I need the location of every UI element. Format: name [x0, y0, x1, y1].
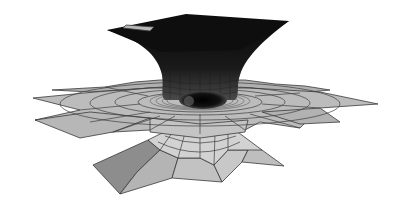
- top-plate-surface: [107, 14, 289, 52]
- hole-rim-light: [184, 96, 194, 106]
- top-plate: [107, 14, 289, 52]
- lower-cone: [93, 130, 284, 194]
- surface-figure: [0, 0, 401, 208]
- surface-svg: [0, 0, 401, 208]
